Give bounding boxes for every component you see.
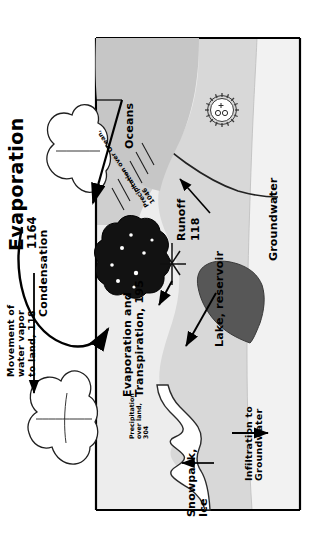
label-evapotranspiration: Evaporation and Transpiration, 195 [122,280,146,397]
cloud-land [28,371,98,464]
label-lake-reservoir: Lake, reservoir [214,251,226,347]
label-oceans: Oceans [124,103,136,149]
label-infiltration: Infiltration to Groundwater [244,406,265,481]
label-precipitation-over-land: Precipitation over land, 304 [128,393,150,439]
label-condensation: Condensation [38,230,50,317]
label-snowpack-ice: Snowpack, Ice [186,448,210,517]
label-movement-of-vapor: Movement of water vapor to land, 118 [6,305,37,377]
label-evaporation-title: Evaporation [6,117,27,251]
label-runoff: Runoff [176,199,188,241]
label-runoff-value: 118 [190,217,202,241]
label-groundwater: Groundwater [268,178,280,261]
sun-icon [205,93,239,127]
water-cycle-diagram: Evaporation 1164 Condensation Precipitat… [0,0,330,543]
